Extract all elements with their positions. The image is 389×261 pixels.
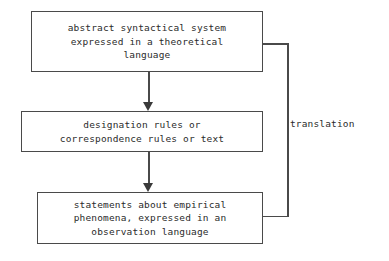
translation-bracket-top-arm	[263, 43, 288, 45]
arrow-shaft	[148, 152, 150, 184]
node-label: statements about empirical phenomena, ex…	[74, 198, 227, 239]
translation-bracket-bottom-arm	[263, 216, 288, 218]
node-designation-rules: designation rules or correspondence rule…	[21, 111, 263, 152]
node-abstract-syntactical-system: abstract syntactical system expressed in…	[31, 11, 263, 72]
node-label: abstract syntactical system expressed in…	[68, 21, 226, 62]
arrow-shaft	[148, 72, 150, 103]
arrow-abstract-to-designation	[143, 72, 154, 112]
arrow-head-icon	[143, 102, 153, 111]
arrow-head-icon	[143, 183, 153, 192]
node-label: designation rules or correspondence rule…	[60, 118, 224, 145]
translation-label: translation	[290, 117, 355, 130]
translation-bracket-stem	[287, 43, 289, 217]
node-statements-about-empirical-phenomena: statements about empirical phenomena, ex…	[37, 192, 263, 244]
flowchart-diagram: abstract syntactical system expressed in…	[0, 0, 389, 261]
arrow-designation-to-statements	[143, 152, 154, 193]
